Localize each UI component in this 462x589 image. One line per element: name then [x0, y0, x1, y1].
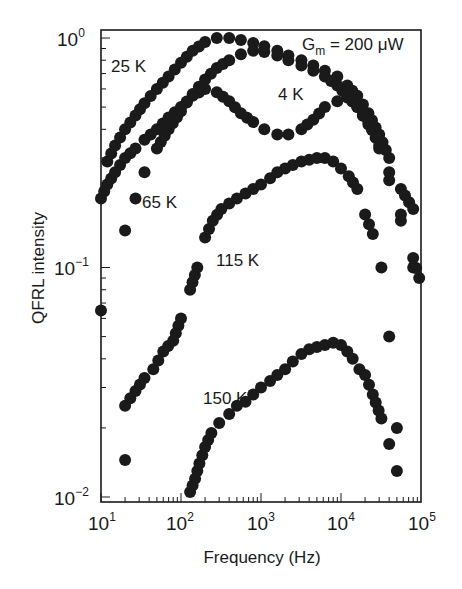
- data-point: [130, 143, 142, 155]
- series-label-150k: 150 K: [203, 389, 248, 408]
- data-point: [213, 417, 225, 429]
- x-minor-ticks: [101, 493, 417, 502]
- y-tick-label-1e0: 100: [57, 26, 85, 50]
- data-point: [375, 412, 387, 424]
- x-tick-label-1e1: 101: [88, 510, 116, 534]
- series-label-4k: 4 K: [278, 85, 304, 104]
- data-point: [139, 166, 151, 178]
- data-point: [247, 45, 259, 57]
- data-point: [383, 166, 395, 178]
- data-point: [119, 225, 131, 237]
- data-point: [247, 116, 259, 128]
- data-point: [367, 228, 379, 240]
- data-point: [391, 422, 403, 434]
- x-axis-title: Frequency (Hz): [203, 548, 320, 567]
- data-point: [130, 192, 142, 204]
- series-label-25k: 25 K: [111, 57, 147, 76]
- data-point: [395, 209, 407, 221]
- data-point: [235, 48, 247, 60]
- power-annotation: Gm = 200 μW: [302, 35, 404, 58]
- data-point: [223, 32, 235, 44]
- data-point: [391, 465, 403, 477]
- data-point: [373, 140, 385, 152]
- x-tick-label-1e2: 102: [166, 510, 194, 534]
- data-point: [282, 54, 294, 66]
- data-point: [119, 454, 131, 466]
- x-tick-label-1e5: 105: [408, 510, 436, 534]
- x-tick-label-1e4: 104: [327, 510, 355, 534]
- data-point: [223, 54, 235, 66]
- data-point: [175, 312, 187, 324]
- data-point: [319, 101, 331, 113]
- data-point: [271, 49, 283, 61]
- plot-markers: [95, 32, 425, 498]
- y-axis-title: QFRL intensity: [29, 212, 48, 324]
- data-point: [258, 46, 270, 58]
- data-point: [351, 183, 363, 195]
- data-point: [307, 65, 319, 77]
- data-point: [258, 123, 270, 135]
- data-point: [383, 331, 395, 343]
- data-point: [235, 34, 247, 46]
- data-point: [282, 128, 294, 140]
- y-tick-label-1e-1: 10−1: [54, 255, 89, 279]
- data-point: [139, 372, 151, 384]
- data-point: [375, 262, 387, 274]
- data-point: [383, 438, 395, 450]
- data-point: [199, 36, 211, 48]
- data-point: [191, 262, 203, 274]
- y-minor-ticks: [101, 38, 110, 497]
- data-point: [383, 152, 395, 164]
- data-point: [205, 427, 217, 439]
- data-point: [271, 128, 283, 140]
- data-point: [295, 59, 307, 71]
- data-point: [413, 272, 425, 284]
- series-label-65k: 65 K: [142, 193, 178, 212]
- series-label-115k: 115 K: [216, 251, 260, 270]
- data-point: [211, 32, 223, 44]
- x-tick-label-1e3: 103: [247, 510, 275, 534]
- data-point: [407, 203, 419, 215]
- data-point: [347, 353, 359, 365]
- y-tick-label-1e-2: 10−2: [54, 485, 89, 509]
- qfrl-frequency-chart: 100 10−1 10−2 101 102 103 104 105 Freque…: [0, 0, 462, 589]
